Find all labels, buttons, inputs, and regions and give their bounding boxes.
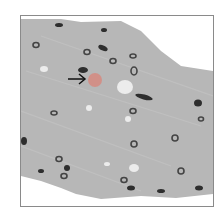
tissue-section — [21, 16, 213, 206]
micrograph-frame — [20, 15, 214, 207]
highlighted-cell — [88, 73, 102, 87]
